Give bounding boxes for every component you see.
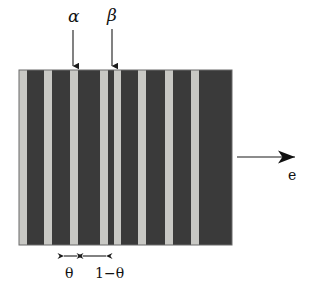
stripe-alpha [138, 70, 146, 245]
e-label: e [288, 168, 296, 182]
stripe-alpha [70, 70, 78, 245]
lamellar-stripe-diagram [0, 0, 318, 292]
stripe-alpha [165, 70, 173, 245]
stripe-beta [27, 70, 44, 245]
beta-label: β [107, 7, 117, 24]
theta-label: θ [65, 266, 73, 280]
stripe-beta [52, 70, 70, 245]
stripe-alpha [100, 70, 108, 245]
stripe-alpha [114, 70, 121, 245]
lamellar-block [19, 70, 232, 245]
stripe-beta [146, 70, 165, 245]
stripe-alpha [19, 70, 27, 245]
stripe-alpha [44, 70, 52, 245]
stripe-beta [78, 70, 100, 245]
stripe-beta [199, 70, 232, 245]
stripe-group [19, 70, 232, 245]
stripe-beta [121, 70, 138, 245]
one-minus-theta-label: 1−θ [95, 266, 124, 280]
stripe-beta [173, 70, 191, 245]
stripe-beta [108, 70, 114, 245]
stripe-alpha [191, 70, 199, 245]
alpha-label: α [68, 8, 79, 25]
